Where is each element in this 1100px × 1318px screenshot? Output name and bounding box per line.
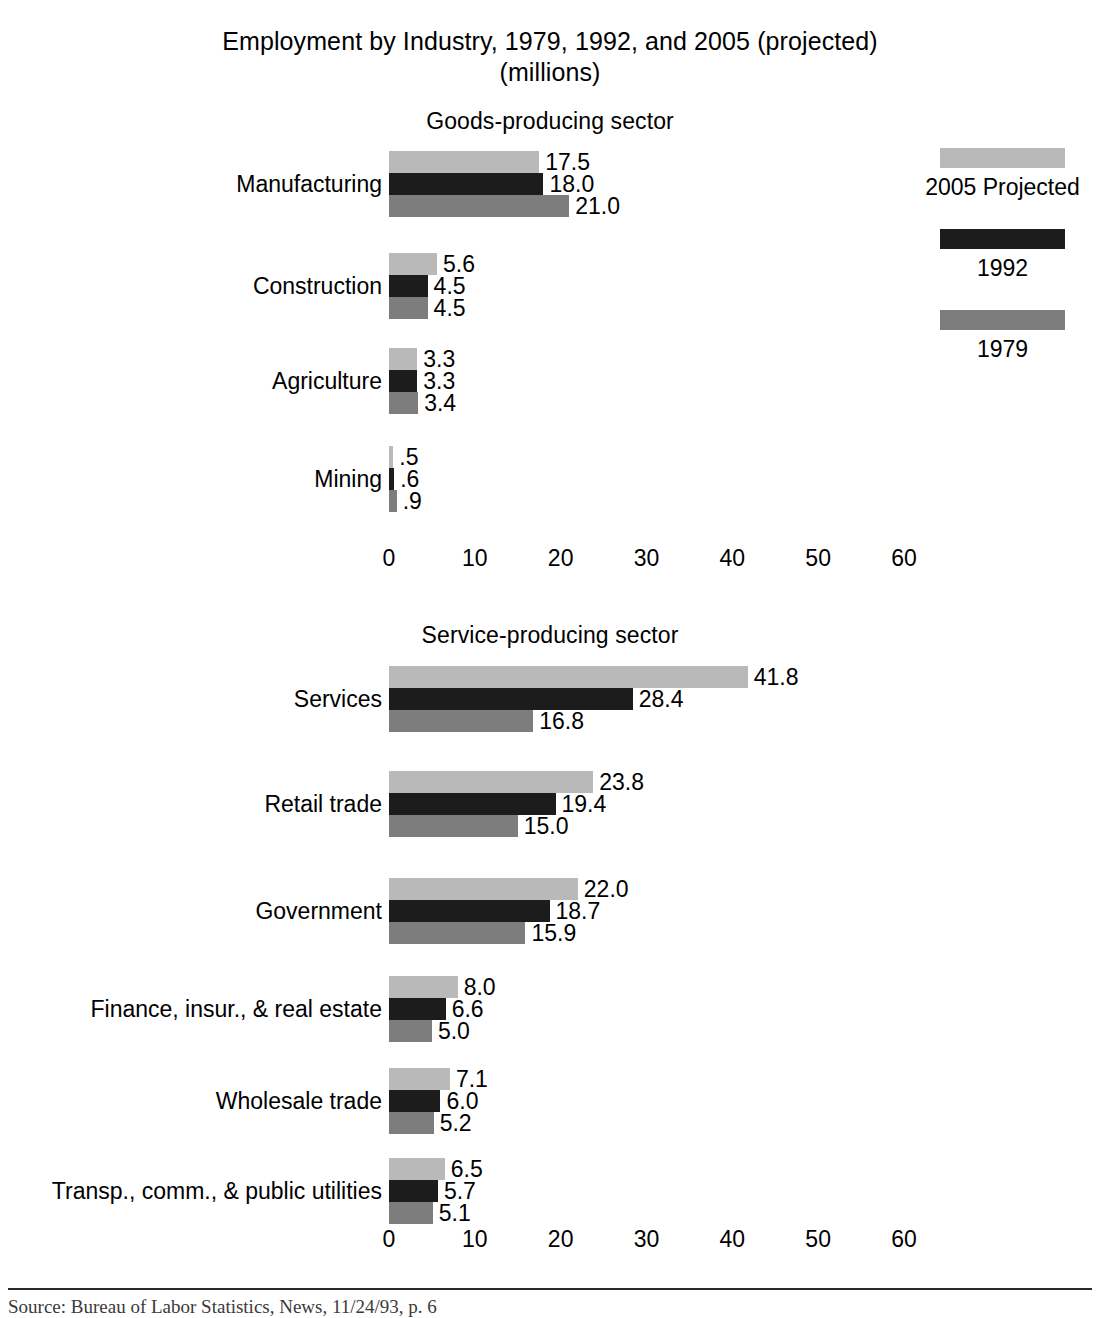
bar-2005-projected[interactable] — [389, 151, 539, 173]
bar-2005-projected[interactable] — [389, 666, 748, 688]
bar-value-label: 6.0 — [440, 1090, 478, 1112]
bar-value-label: 6.6 — [446, 998, 484, 1020]
source-note: Source: Bureau of Labor Statistics, News… — [8, 1296, 437, 1318]
bar-row: 5.0 — [389, 1020, 496, 1042]
bar-row: 28.4 — [389, 688, 799, 710]
axis-tick: 60 — [891, 545, 917, 572]
bar-1979[interactable] — [389, 195, 569, 217]
axis-tick: 0 — [383, 545, 396, 572]
bar-group: Wholesale trade7.16.05.2 — [0, 1068, 1100, 1134]
bar-1992[interactable] — [389, 1090, 440, 1112]
bar-value-label: 15.0 — [518, 815, 569, 837]
legend-item-s1979[interactable]: 1979 — [905, 310, 1100, 363]
bar-value-label: 23.8 — [593, 771, 644, 793]
bar-1979[interactable] — [389, 710, 533, 732]
chart-title-line2: (millions) — [0, 57, 1100, 88]
bar-1979[interactable] — [389, 1020, 432, 1042]
legend-swatch-s1979 — [940, 310, 1065, 330]
x-axis: 0102030405060 — [0, 1226, 1100, 1256]
bar-1992[interactable] — [389, 173, 543, 195]
bar-stack: 22.018.715.9 — [389, 878, 629, 944]
bar-row: 18.7 — [389, 900, 629, 922]
chart-title: Employment by Industry, 1979, 1992, and … — [0, 26, 1100, 88]
service-sector-plot: Services41.828.416.8Retail trade23.819.4… — [0, 658, 1100, 1258]
bar-value-label: .9 — [397, 490, 422, 512]
bar-1979[interactable] — [389, 392, 418, 414]
bar-row: 16.8 — [389, 710, 799, 732]
bar-1979[interactable] — [389, 1202, 433, 1224]
bar-row: 3.3 — [389, 348, 456, 370]
bar-1992[interactable] — [389, 793, 556, 815]
bar-2005-projected[interactable] — [389, 771, 593, 793]
category-label: Government — [255, 898, 382, 925]
bar-1992[interactable] — [389, 1180, 438, 1202]
chart-title-line1: Employment by Industry, 1979, 1992, and … — [222, 27, 878, 55]
bar-1979[interactable] — [389, 1112, 434, 1134]
bar-value-label: 5.6 — [437, 253, 475, 275]
axis-tick: 50 — [805, 1226, 831, 1253]
bar-1979[interactable] — [389, 297, 428, 319]
bar-group: Government22.018.715.9 — [0, 878, 1100, 944]
bar-1979[interactable] — [389, 490, 397, 512]
bar-2005-projected[interactable] — [389, 976, 458, 998]
legend-label-s1992: 1992 — [905, 255, 1100, 282]
bar-row: .9 — [389, 490, 422, 512]
bar-2005-projected[interactable] — [389, 878, 578, 900]
bar-group: Finance, insur., & real estate8.06.65.0 — [0, 976, 1100, 1042]
bar-group: Retail trade23.819.415.0 — [0, 771, 1100, 837]
category-label: Construction — [253, 273, 382, 300]
bar-1992[interactable] — [389, 998, 446, 1020]
legend-label-s2005: 2005 Projected — [905, 174, 1100, 201]
bar-row: 5.6 — [389, 253, 475, 275]
bar-row: 7.1 — [389, 1068, 488, 1090]
bar-stack: 3.33.33.4 — [389, 348, 456, 414]
bar-row: 15.0 — [389, 815, 644, 837]
legend-label-s1979: 1979 — [905, 336, 1100, 363]
legend-swatch-s2005 — [940, 148, 1065, 168]
axis-tick: 50 — [805, 545, 831, 572]
bar-value-label: 5.7 — [438, 1180, 476, 1202]
bar-row: 15.9 — [389, 922, 629, 944]
bar-stack: 6.55.75.1 — [389, 1158, 483, 1224]
bar-value-label: 3.3 — [417, 370, 455, 392]
bar-1979[interactable] — [389, 922, 525, 944]
bar-1992[interactable] — [389, 275, 428, 297]
bar-2005-projected[interactable] — [389, 253, 437, 275]
bar-value-label: .5 — [393, 446, 418, 468]
axis-tick: 20 — [548, 1226, 574, 1253]
bar-row: .6 — [389, 468, 422, 490]
bar-row: 41.8 — [389, 666, 799, 688]
bar-value-label: 17.5 — [539, 151, 590, 173]
bar-2005-projected[interactable] — [389, 1068, 450, 1090]
bar-group: Transp., comm., & public utilities6.55.7… — [0, 1158, 1100, 1224]
axis-tick: 10 — [462, 1226, 488, 1253]
bar-value-label: 21.0 — [569, 195, 620, 217]
bar-value-label: 22.0 — [578, 878, 629, 900]
bar-stack: .5.6.9 — [389, 446, 422, 512]
bar-value-label: 4.5 — [428, 297, 466, 319]
axis-tick: 40 — [720, 545, 746, 572]
bar-1979[interactable] — [389, 815, 518, 837]
category-label: Agriculture — [272, 368, 382, 395]
bar-row: 5.1 — [389, 1202, 483, 1224]
x-axis: 0102030405060 — [0, 545, 1100, 575]
bar-row: 6.6 — [389, 998, 496, 1020]
bar-2005-projected[interactable] — [389, 348, 417, 370]
axis-tick: 60 — [891, 1226, 917, 1253]
footer-divider — [8, 1288, 1092, 1290]
bar-value-label: 41.8 — [748, 666, 799, 688]
bar-1992[interactable] — [389, 900, 550, 922]
bar-1992[interactable] — [389, 688, 633, 710]
bar-value-label: 7.1 — [450, 1068, 488, 1090]
bar-2005-projected[interactable] — [389, 1158, 445, 1180]
category-label: Wholesale trade — [216, 1088, 382, 1115]
category-label: Finance, insur., & real estate — [91, 996, 383, 1023]
bar-row: 4.5 — [389, 297, 475, 319]
bar-row: 6.5 — [389, 1158, 483, 1180]
legend-item-s2005[interactable]: 2005 Projected — [905, 148, 1100, 201]
axis-tick: 10 — [462, 545, 488, 572]
bar-1992[interactable] — [389, 370, 417, 392]
category-label: Retail trade — [264, 791, 382, 818]
axis-tick: 20 — [548, 545, 574, 572]
legend-item-s1992[interactable]: 1992 — [905, 229, 1100, 282]
